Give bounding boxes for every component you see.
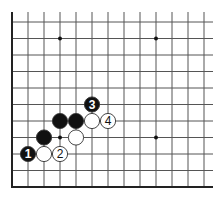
black-stone	[36, 130, 51, 145]
black-stone	[68, 113, 83, 128]
black-stone: 3	[84, 97, 99, 112]
black-stone	[52, 113, 67, 128]
black-stone: 1	[20, 146, 35, 161]
board-grid	[11, 12, 213, 188]
white-stone	[36, 146, 51, 161]
move-number-label: 4	[105, 114, 112, 128]
star-point-icon	[154, 37, 158, 41]
white-stone	[68, 130, 83, 145]
move-number-label: 3	[89, 98, 96, 112]
white-stone: 2	[52, 146, 67, 161]
white-stone	[84, 113, 99, 128]
star-point-icon	[58, 37, 62, 41]
move-number-label: 1	[25, 147, 32, 161]
white-stone: 4	[100, 113, 115, 128]
star-point-icon	[154, 136, 158, 140]
move-number-label: 2	[57, 147, 64, 161]
stones: 3412	[20, 97, 115, 162]
star-point-icon	[58, 136, 62, 140]
go-board: 3412	[0, 0, 222, 197]
